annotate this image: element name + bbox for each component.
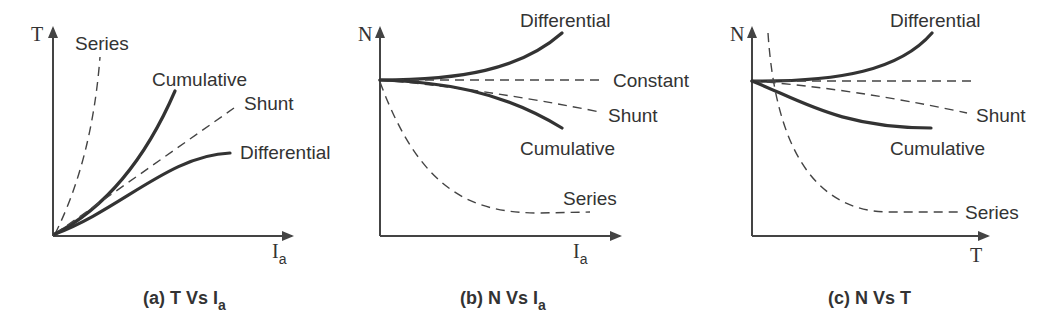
curve-differential: [55, 153, 230, 234]
label-differential: Differential: [520, 10, 610, 31]
motor-characteristics-figure: T Ia Series Cumulative Shunt Differentia…: [0, 0, 1063, 329]
caption-c: (c) N Vs T: [828, 288, 911, 308]
label-differential: Differential: [240, 142, 330, 163]
panel-a-t-vs-ia: T Ia Series Cumulative Shunt Differentia…: [31, 23, 330, 313]
caption-b: (b) N Vs Ia: [460, 288, 546, 313]
y-axis-label: N: [358, 23, 372, 45]
x-axis-label: T: [970, 244, 982, 266]
label-shunt: Shunt: [976, 105, 1026, 126]
label-cumulative: Cumulative: [152, 69, 247, 90]
curve-shunt: [55, 108, 234, 234]
curve-differential: [752, 33, 932, 81]
label-differential: Differential: [890, 10, 980, 31]
curve-cumulative: [752, 81, 931, 128]
y-axis-label: T: [31, 23, 43, 45]
label-series: Series: [563, 188, 617, 209]
label-series: Series: [965, 202, 1019, 223]
x-axis-label: Ia: [272, 240, 287, 267]
curve-cumulative: [380, 80, 562, 128]
curve-shunt: [752, 81, 967, 113]
x-axis-label: Ia: [573, 240, 588, 267]
label-shunt: Shunt: [244, 93, 294, 114]
curve-differential: [380, 33, 562, 80]
y-axis-label: N: [730, 23, 744, 45]
caption-a: (a) T Vs Ia: [143, 288, 226, 313]
panel-b-n-vs-ia: N Ia Differential Constant Shunt Cumulat…: [358, 10, 690, 313]
label-cumulative: Cumulative: [520, 138, 615, 159]
label-shunt: Shunt: [608, 105, 658, 126]
label-constant: Constant: [613, 70, 690, 91]
label-series: Series: [75, 33, 129, 54]
label-cumulative: Cumulative: [890, 138, 985, 159]
panel-c-n-vs-t: N T Differential Shunt Cumulative Series…: [730, 10, 1026, 308]
